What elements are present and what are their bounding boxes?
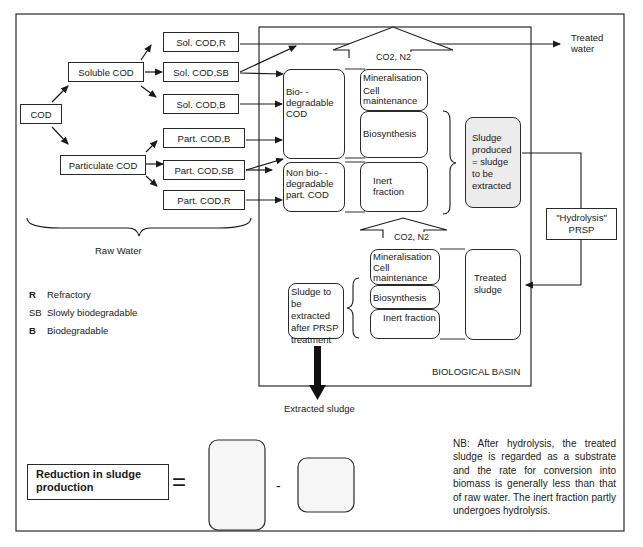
treated-water-label: Treated water: [571, 32, 611, 54]
mineralisation-label-lower: Mineralisation: [373, 251, 437, 262]
cod-label: COD: [30, 109, 51, 120]
part-cod-r-box: Part. COD,R: [163, 190, 245, 210]
soluble-cod-box: Soluble COD: [68, 62, 144, 82]
part-cod-b-box: Part. COD,B: [163, 128, 245, 148]
particulate-cod-label: Particulate COD: [69, 160, 138, 171]
legend-key-sb: SB: [29, 307, 42, 318]
legend-key-r: R: [29, 289, 36, 300]
biodegradable-cod-label: Bio- -degradable COD: [286, 86, 334, 119]
reduction-in-sludge-production-box: Reduction in sludge production: [27, 464, 169, 500]
part-cod-sb-label: Part. COD,SB: [174, 165, 233, 176]
prsp-label: PRSP: [569, 224, 595, 236]
hydrolysis-prsp-box: "Hydrolysis" PRSP: [546, 208, 617, 240]
minus-sign: -: [276, 478, 281, 494]
sol-cod-sb-box: Sol. COD,SB: [163, 62, 239, 82]
raw-water-label: Raw Water: [95, 245, 142, 256]
particulate-cod-box: Particulate COD: [60, 155, 146, 175]
soluble-cod-label: Soluble COD: [78, 67, 133, 78]
sludge-produced-box: Sludge produced = sludge to be extracted: [465, 117, 521, 208]
inert-fraction-box-upper: Inert fraction: [360, 162, 428, 212]
biosynthesis-label-upper: Biosynthesis: [363, 128, 416, 139]
sol-cod-r-box: Sol. COD,R: [163, 32, 239, 52]
legend-meaning-b: Biodegradable: [47, 325, 108, 336]
sludge-after-prsp-box: Sludge to be extracted after PRSP treatm…: [288, 283, 344, 339]
non-biodegradable-cod-box: Non bio- -degradable part. COD: [283, 162, 345, 212]
biodegradable-cod-box: Bio- -degradable COD: [283, 69, 345, 159]
inert-fraction-box-lower: Inert fraction: [370, 309, 440, 339]
cell-maintenance-label-lower: Cell maintenance: [373, 263, 437, 283]
extracted-sludge-arrow-head: [309, 385, 326, 400]
non-biodegradable-cod-label: Non bio- -degradable part. COD: [286, 167, 334, 200]
sol-cod-r-label: Sol. COD,R: [176, 37, 226, 48]
cell-maintenance-label-upper: Cell maintenance: [363, 86, 425, 106]
treated-sludge-box: Treated sludge: [465, 249, 521, 340]
legend-meaning-sb: Slowly biodegradable: [47, 307, 137, 318]
sludge-produced-label: Sludge produced = sludge to be extracted: [472, 132, 512, 191]
hydrolysis-label: "Hydrolysis": [556, 212, 607, 224]
biosynthesis-box-upper: Biosynthesis: [360, 111, 428, 158]
part-cod-b-label: Part. COD,B: [178, 133, 231, 144]
extracted-sludge-label: Extracted sludge: [284, 403, 355, 414]
mineralisation-box-upper: Mineralisation Cell maintenance: [360, 69, 428, 111]
mineralisation-label-upper: Mineralisation: [363, 72, 425, 83]
part-cod-sb-box: Part. COD,SB: [163, 160, 245, 180]
sol-cod-b-label: Sol. COD,B: [176, 99, 225, 110]
legend-meaning-r: Refractory: [47, 289, 91, 300]
reduction-label: Reduction in sludge production: [36, 468, 141, 493]
mineralisation-box-lower: Mineralisation Cell maintenance: [370, 249, 440, 285]
legend-key-b: B: [29, 325, 36, 336]
inert-fraction-label-lower: Inert fraction: [383, 312, 436, 323]
co2-label-lower: CO2, N2: [393, 232, 430, 243]
cod-box: COD: [20, 104, 62, 124]
biosynthesis-label-lower: Biosynthesis: [373, 292, 426, 303]
part-cod-r-label: Part. COD,R: [177, 195, 230, 206]
sludge-after-prsp-label: Sludge to be extracted after PRSP treatm…: [291, 286, 338, 345]
equals-sign: =: [172, 468, 186, 496]
biological-basin-label: BIOLOGICAL BASIN: [432, 366, 520, 377]
biosynthesis-box-lower: Biosynthesis: [370, 285, 440, 309]
sol-cod-sb-label: Sol. COD,SB: [173, 67, 228, 78]
co2-label-upper: CO2, N2: [375, 52, 412, 63]
treated-sludge-label: Treated sludge: [474, 272, 506, 295]
eq-box-sludge-after-prsp: [298, 458, 354, 512]
extracted-sludge-arrow-shaft: [314, 346, 321, 386]
note-text: NB: After hydrolysis, the treated sludge…: [453, 437, 616, 517]
inert-fraction-label-upper: Inert fraction: [373, 175, 404, 197]
eq-box-sludge-produced: [209, 440, 265, 530]
sol-cod-b-box: Sol. COD,B: [163, 94, 239, 114]
